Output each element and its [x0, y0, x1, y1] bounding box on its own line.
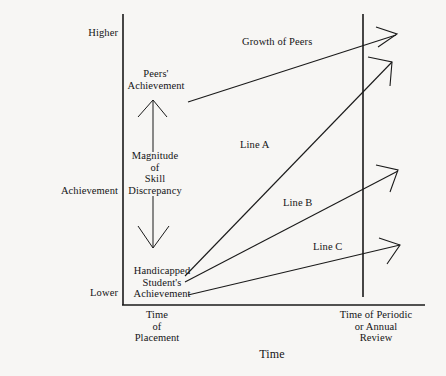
- line-c: [188, 245, 400, 295]
- x-tick-review-label: Time of Periodic or Annual Review: [340, 309, 412, 344]
- growth-of-peers-label: Growth of Peers: [242, 36, 312, 48]
- line-a-label: Line A: [240, 139, 269, 151]
- growth-of-peers-arrowhead: [376, 27, 397, 47]
- line-c-arrowhead: [379, 238, 400, 264]
- y-axis-low-label: Lower: [90, 287, 118, 299]
- handicapped-student-achievement-label: Handicapped Student's Achievement: [133, 265, 190, 300]
- diagram-canvas: Higher Lower Achievement Time of Placeme…: [0, 0, 446, 376]
- line-c-label: Line C: [313, 241, 342, 253]
- y-axis-title: Achievement: [61, 185, 118, 197]
- y-axis-high-label: Higher: [88, 27, 118, 39]
- line-a-arrowhead: [368, 57, 392, 86]
- line-b-label: Line B: [283, 197, 312, 209]
- x-axis-title: Time: [259, 349, 284, 361]
- magnitude-of-skill-discrepancy-label: Magnitude of Skill Discrepancy: [128, 150, 182, 196]
- x-tick-placement-label: Time of Placement: [135, 309, 180, 344]
- line-b: [185, 171, 398, 282]
- line-a: [185, 62, 392, 276]
- line-b-arrowhead: [376, 165, 398, 192]
- peers-achievement-label: Peers' Achievement: [127, 68, 184, 91]
